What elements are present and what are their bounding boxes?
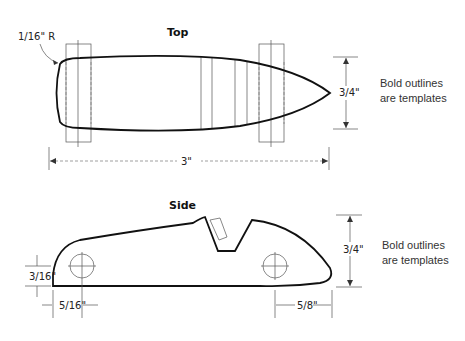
arrowhead — [322, 158, 328, 164]
arrowhead — [343, 122, 349, 128]
width-label: 3/4" — [339, 87, 360, 98]
front-axle-offset-label: 5/16" — [59, 300, 86, 311]
front-axle-height-label: 3/16" — [29, 271, 56, 282]
rear-axle-offset-label: 5/8" — [297, 300, 318, 311]
side-view: Side 3/4" 3/16" 5/16" — [25, 199, 449, 318]
top-body-outline — [57, 56, 331, 131]
top-note-line1: Bold outlines — [380, 77, 443, 89]
length-label: 3" — [181, 156, 192, 167]
rear-wheel-top — [259, 44, 284, 142]
side-view-title: Side — [169, 199, 196, 212]
radius-leader — [40, 44, 58, 63]
side-note-line2: are templates — [382, 254, 449, 266]
side-height-label: 3/4" — [343, 244, 364, 255]
top-view-title: Top — [167, 26, 189, 39]
arrowhead — [347, 280, 353, 286]
radius-label: 1/16" R — [18, 31, 55, 42]
arrowhead — [50, 158, 56, 164]
arrowhead — [343, 58, 349, 64]
arrowhead — [347, 216, 353, 222]
top-note-line2: are templates — [380, 92, 447, 104]
side-body-outline — [53, 217, 331, 286]
side-note-line1: Bold outlines — [382, 239, 445, 251]
pinewood-car-template-diagram: Top 1/16" R 3/4" — [0, 0, 465, 341]
top-view: Top 1/16" R 3/4" — [18, 26, 447, 170]
